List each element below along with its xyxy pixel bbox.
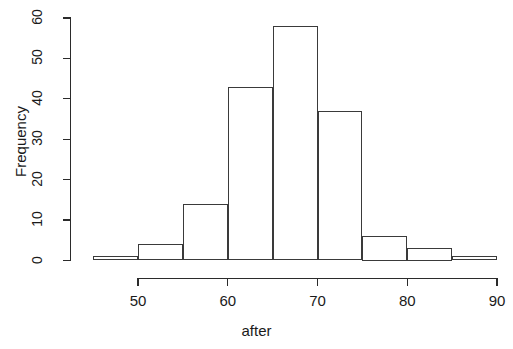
- x-tick-label: 80: [377, 292, 437, 309]
- x-axis-title: after: [0, 322, 513, 339]
- histogram-bar: [273, 26, 318, 260]
- x-tick-mark: [496, 278, 497, 286]
- y-tick-label: 10: [29, 199, 45, 239]
- x-tick-mark: [407, 278, 408, 286]
- histogram-bar: [138, 244, 183, 260]
- y-tick-label: 0: [29, 240, 45, 280]
- histogram-bar: [407, 248, 452, 260]
- y-tick-label: 40: [29, 78, 45, 118]
- y-tick-mark: [63, 17, 71, 18]
- x-tick-mark: [227, 278, 228, 286]
- histogram-bar: [183, 204, 228, 261]
- histogram-bar: [228, 87, 273, 261]
- y-tick-mark: [63, 98, 71, 99]
- y-tick-mark: [63, 260, 71, 261]
- x-tick-label: 50: [108, 292, 168, 309]
- y-tick-label: 20: [29, 159, 45, 199]
- y-tick-mark: [63, 139, 71, 140]
- x-tick-label: 90: [467, 292, 513, 309]
- x-tick-mark: [317, 278, 318, 286]
- x-tick-label: 60: [198, 292, 258, 309]
- y-axis-title: Frequency: [12, 92, 29, 192]
- histogram-bar: [362, 236, 407, 260]
- histogram-plot: Frequency 0102030405060 5060708090 after: [0, 0, 513, 349]
- histogram-bar: [452, 256, 497, 260]
- x-tick-label: 70: [288, 292, 348, 309]
- x-tick-mark: [137, 278, 138, 286]
- y-tick-mark: [63, 219, 71, 220]
- y-tick-mark: [63, 58, 71, 59]
- histogram-bar: [318, 111, 363, 261]
- y-tick-label: 60: [29, 0, 45, 37]
- y-tick-label: 30: [29, 118, 45, 158]
- y-tick-mark: [63, 179, 71, 180]
- y-tick-label: 50: [29, 37, 45, 77]
- histogram-bar: [93, 256, 138, 260]
